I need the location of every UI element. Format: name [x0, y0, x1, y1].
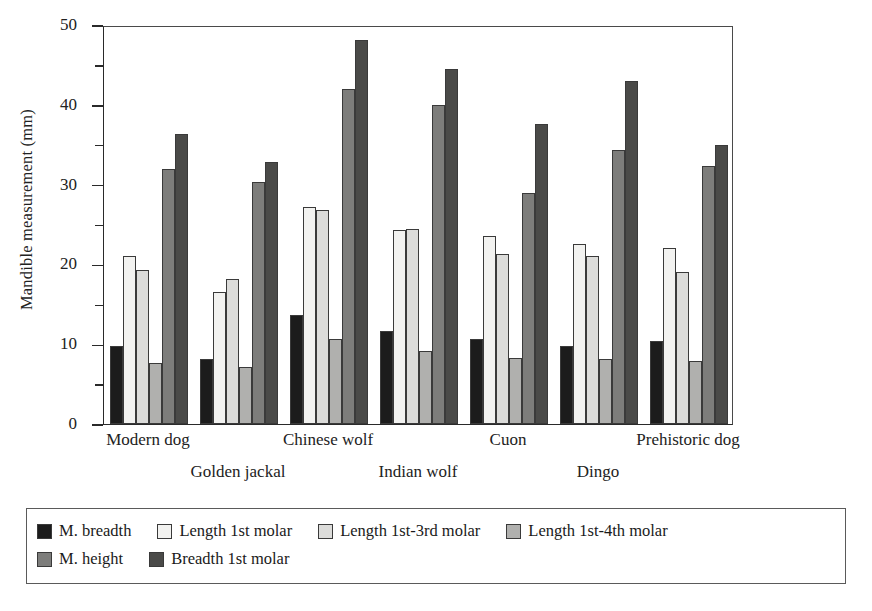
x-axis-label: Chinese wolf — [283, 430, 373, 450]
y-tick-mark — [92, 424, 103, 425]
bar — [162, 169, 175, 424]
x-axis-label: Cuon — [490, 430, 527, 450]
bar — [329, 339, 342, 424]
bar — [560, 346, 573, 424]
legend-label: Length 1st-4th molar — [528, 521, 667, 541]
bar — [303, 207, 316, 424]
bar — [663, 248, 676, 424]
bar — [522, 193, 535, 424]
bar — [393, 230, 406, 424]
bar — [496, 254, 509, 424]
legend-swatch-icon — [157, 524, 172, 539]
bar-group — [380, 27, 458, 424]
bar — [650, 341, 663, 424]
chart-legend: M. breadthLength 1st molarLength 1st-3rd… — [26, 508, 846, 584]
bar — [316, 210, 329, 424]
bar — [419, 351, 432, 424]
legend-item: Length 1st-3rd molar — [318, 521, 480, 541]
bar-group — [110, 27, 188, 424]
y-tick-mark — [95, 145, 103, 146]
legend-swatch-icon — [37, 552, 52, 567]
bar — [342, 89, 355, 424]
y-tick-label: 30 — [60, 175, 77, 195]
bar — [252, 182, 265, 424]
bar-group — [650, 27, 728, 424]
bar — [445, 69, 458, 424]
bar — [470, 339, 483, 424]
bar — [509, 358, 522, 424]
legend-item: M. height — [37, 549, 123, 569]
legend-swatch-icon — [149, 552, 164, 567]
y-axis-title: Mandible measurement (mm) — [14, 40, 40, 380]
bar-group — [200, 27, 278, 424]
x-axis-label: Golden jackal — [191, 462, 286, 482]
y-tick-label: 50 — [60, 15, 77, 35]
legend-swatch-icon — [318, 524, 333, 539]
legend-row-2: M. heightBreadth 1st molar — [37, 545, 845, 573]
x-axis-label: Prehistoric dog — [636, 430, 739, 450]
legend-label: M. height — [59, 549, 123, 569]
bar — [239, 367, 252, 424]
bar — [612, 150, 625, 425]
bar-group — [290, 27, 368, 424]
legend-label: Length 1st molar — [179, 521, 292, 541]
bar — [290, 315, 303, 424]
legend-item: Length 1st molar — [157, 521, 292, 541]
bar — [149, 363, 162, 424]
bar — [702, 166, 715, 424]
y-tick-label: 40 — [60, 95, 77, 115]
bar — [432, 105, 445, 424]
bar-group — [560, 27, 638, 424]
y-tick-mark — [92, 185, 103, 186]
x-axis-label: Indian wolf — [379, 462, 458, 482]
legend-label: M. breadth — [59, 521, 131, 541]
legend-label: Length 1st-3rd molar — [340, 521, 480, 541]
bar — [406, 229, 419, 424]
bar — [355, 40, 368, 424]
bar — [535, 124, 548, 424]
y-tick-label: 20 — [60, 254, 77, 274]
plot-area — [103, 26, 733, 425]
legend-swatch-icon — [37, 524, 52, 539]
legend-item: Length 1st-4th molar — [506, 521, 667, 541]
legend-item: M. breadth — [37, 521, 131, 541]
y-tick-mark — [95, 384, 103, 385]
bar — [599, 359, 612, 424]
chart-figure: Mandible measurement (mm) 01020304050 Mo… — [0, 0, 872, 611]
y-tick-mark — [95, 65, 103, 66]
y-tick-label: 0 — [69, 414, 78, 434]
y-tick-mark — [92, 105, 103, 106]
y-tick-label: 10 — [60, 334, 77, 354]
bar — [689, 361, 702, 424]
bar — [136, 270, 149, 424]
y-tick-mark — [92, 345, 103, 346]
bar — [213, 292, 226, 424]
y-axis-title-text: Mandible measurement (mm) — [17, 109, 37, 310]
bar — [226, 279, 239, 424]
bar — [715, 145, 728, 424]
bar — [483, 236, 496, 424]
bar — [265, 162, 278, 424]
y-tick-mark — [95, 225, 103, 226]
legend-row-1: M. breadthLength 1st molarLength 1st-3rd… — [37, 517, 845, 545]
y-tick-mark — [95, 305, 103, 306]
bar — [380, 331, 393, 424]
y-tick-mark — [92, 265, 103, 266]
bar — [676, 272, 689, 424]
legend-label: Breadth 1st molar — [171, 549, 289, 569]
legend-item: Breadth 1st molar — [149, 549, 289, 569]
bar — [625, 81, 638, 424]
x-axis-label: Dingo — [577, 462, 620, 482]
bar — [200, 359, 213, 424]
bar — [175, 134, 188, 424]
bar-group — [470, 27, 548, 424]
x-axis-label: Modern dog — [106, 430, 190, 450]
legend-swatch-icon — [506, 524, 521, 539]
bar — [573, 244, 586, 424]
bar — [586, 256, 599, 424]
y-tick-mark — [92, 25, 103, 26]
bar — [123, 256, 136, 424]
bar — [110, 346, 123, 424]
